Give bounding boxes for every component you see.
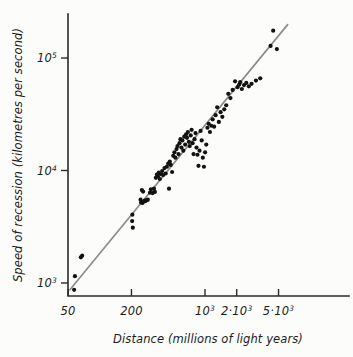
scatter-plot-canvas: 502001032·1035·103103104105 Distance (mi…	[0, 0, 353, 357]
data-point	[191, 152, 195, 156]
data-point	[180, 138, 184, 142]
data-point	[271, 29, 275, 33]
data-point	[215, 105, 219, 109]
y-axis-tick-label: 105	[37, 51, 57, 65]
data-point	[275, 47, 279, 51]
data-point	[167, 187, 171, 191]
data-point	[258, 76, 262, 80]
data-point	[204, 142, 208, 146]
data-point	[196, 164, 200, 168]
data-point	[231, 88, 235, 92]
data-point	[208, 130, 212, 134]
data-point	[218, 110, 222, 114]
data-point	[183, 142, 187, 146]
data-point	[240, 87, 244, 91]
data-point	[80, 254, 84, 258]
data-point	[176, 152, 180, 156]
data-point	[268, 44, 272, 48]
axis-titles-layer: Distance (millions of light years) Speed…	[11, 28, 303, 346]
data-point	[72, 288, 76, 292]
data-point	[220, 115, 224, 119]
data-point	[200, 138, 204, 142]
data-point	[205, 126, 209, 130]
data-point	[228, 96, 232, 100]
data-point	[170, 170, 174, 174]
data-point	[187, 140, 191, 144]
data-point	[195, 153, 199, 157]
data-point	[169, 163, 173, 167]
data-point	[189, 133, 193, 137]
data-point	[212, 125, 216, 129]
data-point	[254, 78, 258, 82]
trend-line-layer	[70, 25, 288, 290]
data-point	[185, 136, 189, 140]
data-point	[153, 190, 157, 194]
data-point	[173, 156, 177, 160]
data-point	[202, 165, 206, 169]
x-axis-tick-label: 5·103	[263, 304, 294, 318]
y-axis-tick-label: 104	[37, 164, 57, 178]
data-point	[238, 80, 242, 84]
y-axis-title: Speed of recession (kilometres per secon…	[11, 28, 25, 282]
data-point	[249, 82, 253, 86]
x-axis-tick-label: 103	[195, 304, 215, 318]
data-point	[190, 141, 194, 145]
data-point	[198, 129, 202, 133]
x-axis-tick-label: 50	[61, 304, 76, 318]
data-point	[73, 274, 77, 278]
data-point	[194, 145, 198, 149]
hubble-diagram-figure: 502001032·1035·103103104105 Distance (mi…	[0, 0, 353, 357]
data-point	[193, 131, 197, 135]
data-point	[186, 130, 190, 134]
data-point	[233, 79, 237, 83]
data-point	[211, 117, 215, 121]
data-point	[190, 128, 194, 132]
x-axis-tick-label: 2·103	[221, 304, 252, 318]
data-point	[203, 150, 207, 154]
data-point	[226, 92, 230, 96]
x-axis-tick-label: 200	[120, 304, 143, 318]
data-point	[164, 171, 168, 175]
x-axis-title: Distance (millions of light years)	[113, 332, 303, 346]
data-point	[217, 120, 221, 124]
data-point	[158, 177, 162, 181]
y-axis-tick-label: 103	[37, 276, 57, 290]
data-point	[224, 103, 228, 107]
data-point	[146, 198, 150, 202]
axes-layer	[68, 14, 349, 296]
data-point	[141, 189, 145, 193]
data-point	[130, 219, 134, 223]
data-point	[181, 149, 185, 153]
data-point	[244, 81, 248, 85]
data-point	[192, 137, 196, 141]
data-point	[197, 149, 201, 153]
data-point	[201, 156, 205, 160]
axis-spine	[68, 14, 349, 296]
data-point	[131, 226, 135, 230]
data-point	[214, 113, 218, 117]
data-point	[222, 107, 226, 111]
trend-line	[70, 25, 288, 290]
data-point	[130, 213, 134, 217]
